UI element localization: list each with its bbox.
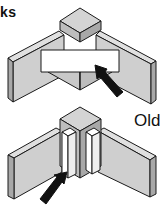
title-fragment: ks (0, 4, 17, 20)
joint-illustration (0, 0, 166, 214)
top-assembly (8, 8, 156, 104)
old-label: Old (134, 111, 160, 131)
diagram-canvas: ks Old (0, 0, 166, 214)
